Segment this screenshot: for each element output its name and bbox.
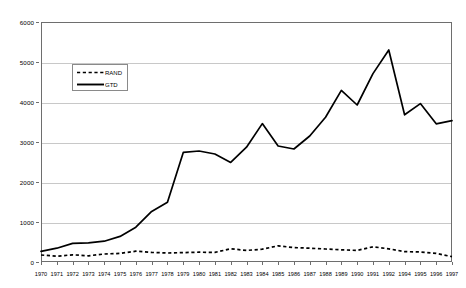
x-tick-label: 1991 [367, 271, 379, 277]
x-tick-label: 1995 [414, 271, 426, 277]
line-chart: 6000500040003000200010000 19701971197219… [0, 0, 466, 288]
legend-label-gtd: GTD [105, 82, 118, 88]
y-tick-mark [36, 22, 39, 23]
x-tick-mark [357, 262, 358, 265]
x-tick-label: 1986 [288, 271, 300, 277]
x-tick-label: 1987 [303, 271, 315, 277]
y-tick-label: 6000 [20, 19, 34, 26]
x-tick-label: 1997 [446, 271, 458, 277]
y-tick-mark [36, 62, 39, 63]
x-tick-mark [73, 262, 74, 265]
x-tick-mark [199, 262, 200, 265]
x-axis: 1970197119721973197419751976197719781979… [41, 262, 452, 288]
x-tick-mark [41, 262, 42, 265]
y-tick-mark [36, 182, 39, 183]
x-tick-mark [405, 262, 406, 265]
x-tick-mark [310, 262, 311, 265]
x-tick-mark [420, 262, 421, 265]
x-tick-label: 1980 [193, 271, 205, 277]
x-tick-mark [152, 262, 153, 265]
x-tick-mark [452, 262, 453, 265]
y-tick-mark [36, 222, 39, 223]
x-tick-label: 1990 [351, 271, 363, 277]
x-tick-label: 1975 [114, 271, 126, 277]
x-tick-mark [389, 262, 390, 265]
x-tick-mark [88, 262, 89, 265]
x-tick-label: 1973 [82, 271, 94, 277]
legend-swatch-solid-icon [76, 80, 105, 89]
x-tick-mark [341, 262, 342, 265]
x-tick-label: 1985 [272, 271, 284, 277]
x-tick-mark [294, 262, 295, 265]
x-tick-label: 1981 [209, 271, 221, 277]
x-tick-mark [136, 262, 137, 265]
y-tick-mark [36, 142, 39, 143]
legend-label-rand: RAND [105, 70, 122, 76]
legend-item-gtd: GTD [73, 78, 127, 91]
y-tick-mark [36, 102, 39, 103]
x-tick-label: 1982 [224, 271, 236, 277]
x-tick-mark [436, 262, 437, 265]
x-tick-label: 1977 [145, 271, 157, 277]
y-tick-label: 3000 [20, 139, 34, 146]
x-tick-label: 1976 [130, 271, 142, 277]
x-tick-label: 1994 [398, 271, 410, 277]
x-tick-mark [215, 262, 216, 265]
y-tick-label: 5000 [20, 59, 34, 66]
x-tick-label: 1988 [319, 271, 331, 277]
series-layer [41, 22, 452, 262]
legend-swatch-dashed-icon [76, 68, 105, 77]
x-tick-label: 1972 [66, 271, 78, 277]
x-tick-mark [104, 262, 105, 265]
x-tick-label: 1970 [35, 271, 47, 277]
x-tick-label: 1984 [256, 271, 268, 277]
y-tick-label: 2000 [20, 179, 34, 186]
y-tick-label: 0 [30, 259, 34, 266]
x-tick-mark [120, 262, 121, 265]
y-axis: 6000500040003000200010000 [0, 22, 39, 262]
x-tick-label: 1978 [161, 271, 173, 277]
x-tick-label: 1996 [430, 271, 442, 277]
series-line-rand [41, 246, 452, 257]
x-tick-mark [326, 262, 327, 265]
x-tick-mark [262, 262, 263, 265]
x-tick-mark [231, 262, 232, 265]
x-tick-mark [57, 262, 58, 265]
x-tick-label: 1979 [177, 271, 189, 277]
x-tick-mark [167, 262, 168, 265]
chart-legend: RAND GTD [72, 64, 128, 91]
y-tick-mark [36, 262, 39, 263]
x-tick-mark [247, 262, 248, 265]
x-tick-mark [183, 262, 184, 265]
x-tick-label: 1971 [51, 271, 63, 277]
x-tick-label: 1992 [383, 271, 395, 277]
x-tick-label: 1974 [98, 271, 110, 277]
x-tick-mark [278, 262, 279, 265]
x-tick-label: 1989 [335, 271, 347, 277]
x-tick-label: 1983 [240, 271, 252, 277]
y-tick-label: 4000 [20, 99, 34, 106]
x-tick-mark [373, 262, 374, 265]
y-tick-label: 1000 [20, 219, 34, 226]
